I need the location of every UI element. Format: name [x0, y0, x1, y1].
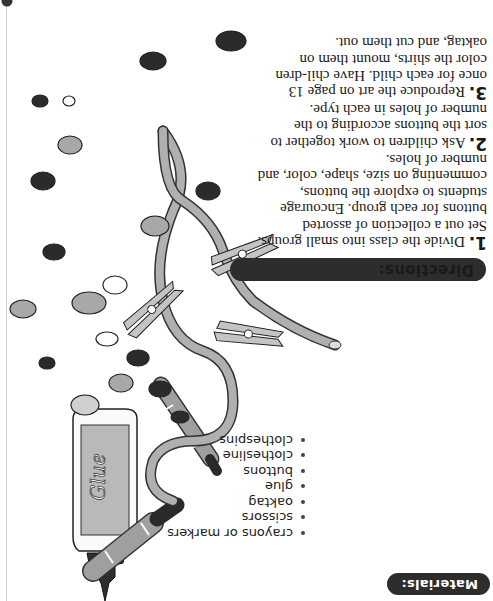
- direction-step: 2. Ask children to work together to sort…: [257, 101, 487, 151]
- glue-label: Glue: [86, 453, 110, 500]
- directions-steps: 1. Divide the class into small groups. S…: [257, 35, 487, 251]
- step-text: Divide the class into small groups. Set …: [257, 152, 487, 250]
- directions-heading: Directions:: [230, 258, 486, 281]
- materials-item: clothespins: [167, 433, 307, 449]
- direction-step: 1. Divide the class into small groups. S…: [257, 152, 487, 251]
- materials-item: oaktag: [167, 495, 307, 511]
- materials-item: glue: [167, 479, 307, 495]
- materials-list: crayons or markers scissors oaktag glue …: [167, 433, 307, 542]
- direction-step: 3. Reproduce the art on page 13 once for…: [257, 35, 487, 102]
- materials-item: scissors: [167, 510, 307, 526]
- materials-heading: Materials:: [387, 573, 490, 595]
- step-number: 2.: [469, 134, 487, 154]
- worksheet-page: Glue: [0, 0, 493, 601]
- materials-item: crayons or markers: [167, 526, 307, 542]
- step-text: Reproduce the art on page 13 once for ea…: [275, 35, 487, 100]
- step-number: 3.: [469, 83, 487, 103]
- step-number: 1.: [469, 233, 487, 253]
- step-text: Ask children to work together to sort th…: [270, 102, 487, 151]
- clothespin-icon: [213, 320, 285, 352]
- materials-item: clothesline: [167, 448, 307, 464]
- materials-item: buttons: [167, 464, 307, 480]
